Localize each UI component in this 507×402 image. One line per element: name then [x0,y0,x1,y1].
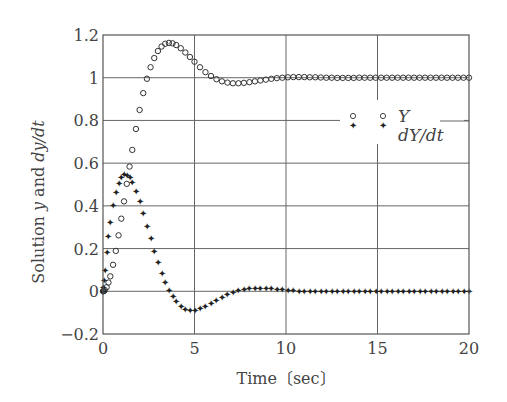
y-tick-label: 0.8 [74,111,99,130]
point-dydt: ✦ [104,231,112,242]
legend-marker-dydt-1: ✦ [349,120,357,131]
point-y [144,76,149,81]
point-y [133,126,138,131]
point-dydt: ✦ [101,265,109,276]
y-axis-label: Solution y and dy/dt [29,120,48,284]
point-dydt: ✦ [143,221,151,232]
point-y [258,78,263,83]
point-y [159,44,164,49]
point-y [252,79,257,84]
x-tick-label: 5 [189,339,199,358]
point-y [110,262,115,267]
point-y [119,216,124,221]
y-tick-label: 0.2 [74,240,99,259]
x-tick-labels: 05101520 [98,339,479,358]
point-y [183,50,188,55]
point-y [219,79,224,84]
y-tick-labels: −0.200.20.40.60.811.2 [60,26,99,344]
point-y [187,54,192,59]
x-tick-label: 20 [459,339,479,358]
point-y [302,74,307,79]
point-dydt: ✦ [106,217,114,228]
point-dydt: ✦ [109,200,117,211]
point-dydt: ✦ [150,246,158,257]
y-axis-label-part-3: and [29,162,48,202]
x-axis-label: Time〔sec〕 [236,369,335,388]
point-y [230,81,235,86]
point-y [178,46,183,51]
point-dydt: ✦ [103,247,111,258]
point-y [197,65,202,70]
point-y [225,80,230,85]
point-y [236,81,241,86]
x-tick-label: 15 [367,339,387,358]
point-y [269,76,274,81]
legend-marker-dydt-2: ✦ [379,120,387,131]
point-y [148,65,153,70]
y-axis-label-part-4: dy/dt [29,120,48,162]
point-y [152,55,157,60]
point-y [137,107,142,112]
point-y [141,90,146,95]
point-dydt: ✦ [139,208,147,219]
y-tick-label: 0.6 [74,154,99,173]
point-y [247,79,252,84]
x-tick-label: 10 [276,339,296,358]
x-tick-label: 0 [98,339,108,358]
y-tick-label: 1 [89,69,99,88]
point-y [116,233,121,238]
point-y [163,41,168,46]
point-y [130,147,135,152]
point-dydt: ✦ [136,196,144,207]
legend: ✦ ✦ Y dY/dt [340,100,469,145]
point-dydt: ✦ [147,233,155,244]
y-tick-label: 1.2 [74,26,99,45]
y-tick-label: 0 [89,282,99,301]
point-y [203,69,208,74]
point-y [121,199,126,204]
point-y [241,80,246,85]
point-dydt: ✦ [132,186,140,197]
point-y [291,74,296,79]
legend-label-dydt: dY/dt [398,125,444,145]
point-y [296,74,301,79]
point-dydt: ✦ [154,257,162,268]
y-tick-label: 0.4 [74,197,99,216]
chart: ✦✦✦✦✦✦✦✦✦✦✦✦✦✦✦✦✦✦✦✦✦✦✦✦✦✦✦✦✦✦✦✦✦✦✦✦✦✦✦✦… [0,0,507,402]
y-axis-label-part-1: Solution [29,211,48,284]
point-dydt: ✦ [100,275,108,286]
legend-label-y: Y [398,106,411,126]
y-tick-label: −0.2 [60,325,99,344]
